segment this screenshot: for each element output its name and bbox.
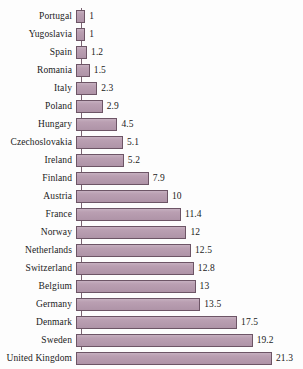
bar-row: Romania1.5 xyxy=(0,64,303,77)
bar-rows: Portugal1Yugoslavia1Spain1.2Romania1.5It… xyxy=(0,10,303,369)
bar xyxy=(76,244,191,257)
bar xyxy=(76,190,168,203)
bar xyxy=(76,208,181,221)
bar-value-label: 2.3 xyxy=(97,82,113,95)
bar-row: United Kingdom21.3 xyxy=(0,352,303,365)
bar xyxy=(76,154,124,167)
bar xyxy=(76,136,123,149)
bar-value-label: 12.5 xyxy=(191,244,212,257)
bar-value-label: 5.1 xyxy=(123,136,139,149)
category-label: Spain xyxy=(0,46,76,59)
category-label: Netherlands xyxy=(0,244,76,257)
bar xyxy=(76,46,87,59)
bar-value-label: 1 xyxy=(85,28,94,41)
bar-value-label: 19.2 xyxy=(253,334,274,347)
bar-row: Austria10 xyxy=(0,190,303,203)
category-label: Czechoslovakia xyxy=(0,136,76,149)
bar xyxy=(76,262,194,275)
bar-row: Belgium13 xyxy=(0,280,303,293)
bar-track: 12.8 xyxy=(76,262,303,275)
bar-track: 1.5 xyxy=(76,64,303,77)
bar xyxy=(76,64,90,77)
bar-track: 21.3 xyxy=(76,352,303,365)
bar xyxy=(76,172,149,185)
bar-track: 4.5 xyxy=(76,118,303,131)
bar-value-label: 5.2 xyxy=(124,154,140,167)
category-label: Ireland xyxy=(0,154,76,167)
bar xyxy=(76,118,117,131)
bar-row: Czechoslovakia5.1 xyxy=(0,136,303,149)
bar-row: Denmark17.5 xyxy=(0,316,303,329)
bar-row: Ireland5.2 xyxy=(0,154,303,167)
bar xyxy=(76,334,253,347)
bar-value-label: 4.5 xyxy=(117,118,133,131)
category-label: Switzerland xyxy=(0,262,76,275)
bar xyxy=(76,298,200,311)
bar-value-label: 10 xyxy=(168,190,182,203)
bar xyxy=(76,10,85,23)
category-label: France xyxy=(0,208,76,221)
bar-row: Yugoslavia1 xyxy=(0,28,303,41)
bar xyxy=(76,352,272,365)
category-label: Belgium xyxy=(0,280,76,293)
bar-row: Norway12 xyxy=(0,226,303,239)
bar-value-label: 17.5 xyxy=(237,316,258,329)
bar-row: Finland7.9 xyxy=(0,172,303,185)
category-label: Denmark xyxy=(0,316,76,329)
bar-value-label: 13.5 xyxy=(200,298,221,311)
bar-track: 7.9 xyxy=(76,172,303,185)
bar-track: 5.1 xyxy=(76,136,303,149)
category-label: Yugoslavia xyxy=(0,28,76,41)
bar-row: Switzerland12.8 xyxy=(0,262,303,275)
bar-track: 19.2 xyxy=(76,334,303,347)
bar-value-label: 1.5 xyxy=(90,64,106,77)
bar-track: 10 xyxy=(76,190,303,203)
bar xyxy=(76,82,97,95)
bar-value-label: 13 xyxy=(196,280,210,293)
bar-value-label: 1 xyxy=(85,10,94,23)
bar-row: France11.4 xyxy=(0,208,303,221)
bar-track: 12 xyxy=(76,226,303,239)
bar xyxy=(76,316,237,329)
bar-track: 13.5 xyxy=(76,298,303,311)
category-label: Romania xyxy=(0,64,76,77)
bar-row: Spain1.2 xyxy=(0,46,303,59)
bar-value-label: 12.8 xyxy=(194,262,215,275)
category-label: Sweden xyxy=(0,334,76,347)
category-label: Finland xyxy=(0,172,76,185)
bar-track: 13 xyxy=(76,280,303,293)
bar-track: 1 xyxy=(76,10,303,23)
bar-row: Poland2.9 xyxy=(0,100,303,113)
category-label: United Kingdom xyxy=(0,352,76,365)
bar-track: 1 xyxy=(76,28,303,41)
bar-track: 1.2 xyxy=(76,46,303,59)
bar-value-label: 11.4 xyxy=(181,208,202,221)
category-label: Germany xyxy=(0,298,76,311)
bar-row: Germany13.5 xyxy=(0,298,303,311)
category-label: Austria xyxy=(0,190,76,203)
bar-value-label: 2.9 xyxy=(103,100,119,113)
category-label: Poland xyxy=(0,100,76,113)
bar-value-label: 7.9 xyxy=(149,172,165,185)
bar-row: Portugal1 xyxy=(0,10,303,23)
category-label: Portugal xyxy=(0,10,76,23)
bar-track: 5.2 xyxy=(76,154,303,167)
category-label: Italy xyxy=(0,82,76,95)
bar-row: Netherlands12.5 xyxy=(0,244,303,257)
bar-track: 17.5 xyxy=(76,316,303,329)
bar-value-label: 12 xyxy=(186,226,200,239)
bar-track: 2.9 xyxy=(76,100,303,113)
bar-track: 11.4 xyxy=(76,208,303,221)
bar xyxy=(76,226,186,239)
bar xyxy=(76,100,103,113)
bar-row: Hungary4.5 xyxy=(0,118,303,131)
bar xyxy=(76,280,196,293)
category-label: Norway xyxy=(0,226,76,239)
bar-value-label: 1.2 xyxy=(87,46,103,59)
category-label: Hungary xyxy=(0,118,76,131)
bar-value-label: 21.3 xyxy=(272,352,293,365)
bar-track: 2.3 xyxy=(76,82,303,95)
bar-track: 12.5 xyxy=(76,244,303,257)
bar xyxy=(76,28,85,41)
